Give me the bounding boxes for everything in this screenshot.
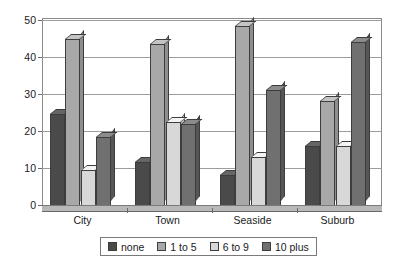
legend-label: 10 plus: [275, 241, 309, 253]
y-axis-tick-label: 10: [24, 162, 36, 174]
x-axis-label-suburb: Suburb: [321, 214, 355, 226]
plot-area: 01020304050: [42, 18, 382, 212]
bar-front-face: [150, 44, 165, 205]
legend-swatch-icon: [262, 242, 271, 251]
x-axis-label-city: City: [73, 214, 91, 226]
legend-label: 6 to 9: [223, 241, 249, 253]
legend-swatch-icon: [108, 242, 117, 251]
bar-suburb-6-to-9: [336, 146, 351, 205]
legend-label: 1 to 5: [170, 241, 196, 253]
bar-front-face: [166, 122, 181, 205]
x-axis-tick: [212, 208, 213, 213]
bar-seaside-10-plus: [266, 90, 281, 205]
bar-chart: 01020304050 CityTownSeasideSuburb none1 …: [0, 0, 398, 274]
bar-side-face: [111, 127, 115, 201]
bar-front-face: [266, 90, 281, 205]
bar-city-10-plus: [96, 137, 111, 205]
bar-front-face: [351, 42, 366, 205]
bar-side-face: [196, 114, 200, 201]
y-axis-tick-label: 30: [24, 88, 36, 100]
bar-town-10-plus: [181, 124, 196, 205]
bar-seaside-6-to-9: [251, 157, 266, 205]
bar-city-1-to-5: [65, 39, 80, 206]
bar-suburb-10-plus: [351, 42, 366, 205]
bar-front-face: [305, 146, 320, 205]
bar-town-none: [135, 162, 150, 205]
bar-front-face: [336, 146, 351, 205]
legend-label: none: [121, 241, 144, 253]
legend-swatch-icon: [157, 242, 166, 251]
x-axis-label-town: Town: [155, 214, 180, 226]
bars-layer: [42, 18, 382, 212]
bar-town-1-to-5: [150, 44, 165, 205]
y-axis-tick-label: 50: [24, 14, 36, 26]
bar-seaside-none: [220, 175, 235, 205]
legend-swatch-icon: [210, 242, 219, 251]
bar-front-face: [50, 114, 65, 205]
chart-legend: none1 to 56 to 910 plus: [100, 237, 317, 256]
y-axis-tick-label: 40: [24, 51, 36, 63]
legend-item-none[interactable]: none: [108, 241, 144, 253]
bar-suburb-1-to-5: [320, 101, 335, 205]
x-axis-label-seaside: Seaside: [234, 214, 272, 226]
x-axis-tick: [127, 208, 128, 213]
bar-seaside-1-to-5: [235, 26, 250, 205]
bar-town-6-to-9: [166, 122, 181, 205]
bar-front-face: [96, 137, 111, 205]
y-axis-tick-label: 20: [24, 125, 36, 137]
bar-side-face: [366, 33, 370, 201]
y-axis-tick-label: 0: [30, 199, 36, 211]
bar-front-face: [81, 170, 96, 205]
legend-item-6-to-9[interactable]: 6 to 9: [210, 241, 249, 253]
bar-side-face: [281, 81, 285, 201]
bar-front-face: [181, 124, 196, 205]
legend-item-10-plus[interactable]: 10 plus: [262, 241, 309, 253]
x-axis-category-labels: CityTownSeasideSuburb: [42, 214, 382, 230]
bar-front-face: [65, 39, 80, 206]
bar-front-face: [235, 26, 250, 205]
bar-suburb-none: [305, 146, 320, 205]
bar-front-face: [251, 157, 266, 205]
bar-city-6-to-9: [81, 170, 96, 205]
bar-city-none: [50, 114, 65, 205]
legend-item-1-to-5[interactable]: 1 to 5: [157, 241, 196, 253]
bar-front-face: [220, 175, 235, 205]
bar-front-face: [320, 101, 335, 205]
x-axis-tick: [297, 208, 298, 213]
bar-front-face: [135, 162, 150, 205]
